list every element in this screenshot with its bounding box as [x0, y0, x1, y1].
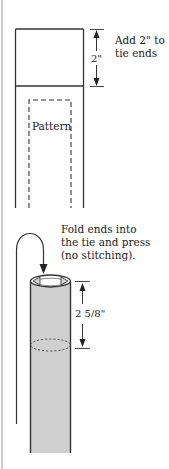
fold-annotation-line2: the tie and press	[61, 236, 150, 249]
dimension-2in-label: 2"	[91, 52, 102, 65]
arrowhead-up-icon	[80, 283, 86, 291]
pattern-label: Pattern	[32, 120, 71, 133]
dimension-2-5-8in-label: 2 5/8"	[75, 307, 105, 320]
folded-tube	[30, 275, 71, 453]
arrowhead-down-icon	[80, 339, 86, 347]
sewing-diagram: Add 2" to tie ends 2" Pattern Fold ends …	[0, 0, 169, 469]
arrowhead-up-icon	[94, 30, 100, 38]
add-2in-annotation-line2: tie ends	[115, 47, 157, 60]
fabric-strip	[16, 29, 84, 208]
add-2in-annotation-line1: Add 2" to	[115, 34, 165, 47]
arrowhead-down-icon	[94, 78, 100, 86]
pattern-outline	[29, 100, 71, 208]
fold-annotation-line3: (no stitching).	[61, 249, 136, 262]
fold-arrowhead-icon	[40, 264, 48, 274]
fold-annotation-line1: Fold ends into	[61, 223, 137, 236]
